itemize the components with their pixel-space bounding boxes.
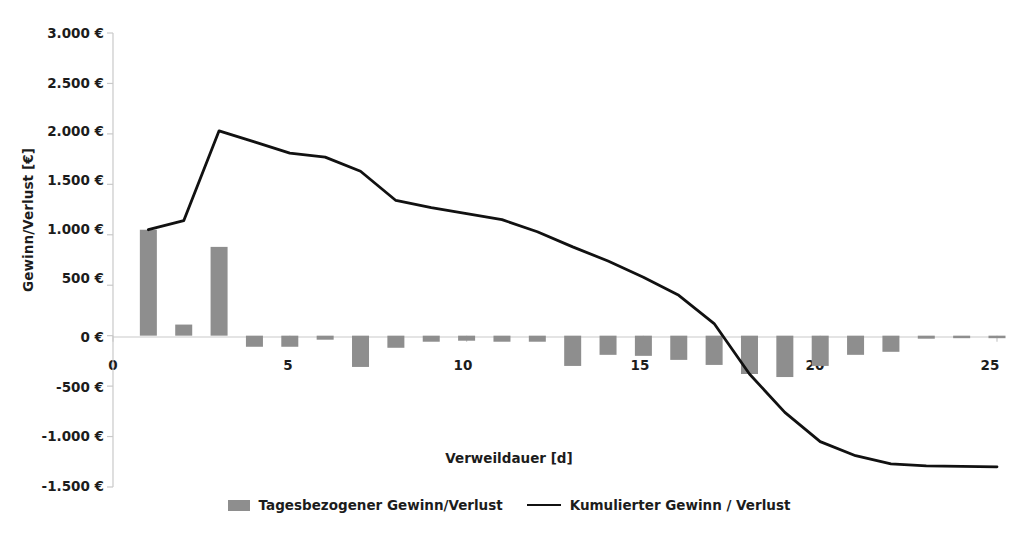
bar — [246, 336, 263, 347]
bar — [847, 336, 864, 355]
legend-bar-swatch-icon — [228, 500, 250, 511]
bar — [953, 336, 970, 339]
bar — [564, 336, 581, 366]
bar — [140, 230, 157, 336]
bar — [600, 336, 617, 355]
bar — [706, 336, 723, 365]
bar — [458, 336, 475, 341]
chart-legend: Tagesbezogener Gewinn/Verlust Kumulierte… — [0, 497, 1018, 513]
bar — [529, 336, 546, 342]
legend-item-bar[interactable]: Tagesbezogener Gewinn/Verlust — [228, 497, 503, 513]
bar-series — [140, 230, 1006, 377]
bar — [635, 336, 652, 356]
bar — [741, 336, 758, 374]
bar — [989, 336, 1006, 339]
legend-label-bar: Tagesbezogener Gewinn/Verlust — [259, 497, 503, 513]
bar — [281, 336, 298, 347]
bar — [776, 336, 793, 377]
axis-lines — [107, 33, 997, 487]
bar — [882, 336, 899, 352]
legend-item-line[interactable]: Kumulierter Gewinn / Verlust — [527, 497, 791, 513]
bar — [493, 336, 510, 342]
bar — [387, 336, 404, 348]
bar — [812, 336, 829, 366]
bar — [211, 247, 228, 336]
line-series — [148, 131, 997, 467]
x-axis-title: Verweildauer [d] — [0, 450, 1018, 466]
bar — [918, 336, 935, 339]
bar — [670, 336, 687, 360]
bar — [175, 325, 192, 336]
bar — [317, 336, 334, 340]
legend-label-line: Kumulierter Gewinn / Verlust — [570, 497, 791, 513]
chart-container: Gewinn/Verlust [€] 3.000 € 2.500 € 2.000… — [0, 0, 1018, 542]
bar — [352, 336, 369, 367]
legend-line-swatch-icon — [527, 504, 561, 506]
bar — [423, 336, 440, 342]
